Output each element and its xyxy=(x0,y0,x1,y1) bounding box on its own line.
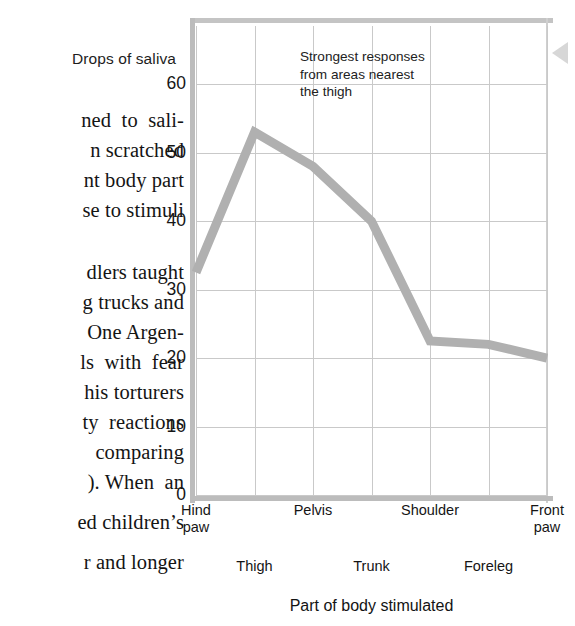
y-axis-title: Drops of saliva xyxy=(0,50,176,68)
y-axis-tick-label: 10 xyxy=(134,416,186,437)
plot-top-border xyxy=(190,18,553,23)
x-axis-category-label: Shoulder xyxy=(385,502,475,519)
x-axis-category-label: Foreleg xyxy=(444,558,534,575)
book-text-line: comparing xyxy=(95,442,184,462)
book-text-line: his torturers xyxy=(84,382,184,402)
gridline-vertical xyxy=(196,26,197,495)
annotation-line: the thigh xyxy=(300,83,480,101)
y-axis-line xyxy=(190,18,195,503)
gridline-vertical xyxy=(255,26,256,495)
gridline-vertical xyxy=(489,26,490,495)
x-axis-category-label: Trunk xyxy=(327,558,417,575)
x-axis-category-labels: Hind pawThighPelvisTrunkShoulderForelegF… xyxy=(196,500,547,580)
book-text-line: nt body part xyxy=(84,170,184,190)
gridline-horizontal xyxy=(196,153,547,154)
gridline-vertical xyxy=(547,26,548,495)
y-axis-tick-label: 30 xyxy=(134,279,186,300)
annotation-line: Strongest responses xyxy=(300,48,480,66)
y-axis-tick-label: 20 xyxy=(134,347,186,368)
x-axis-title: Part of body stimulated xyxy=(196,597,547,615)
book-text-line: r and longer xyxy=(84,552,184,572)
y-axis-tick-label: 60 xyxy=(134,73,186,94)
page-root: Drops of saliva ned to sali- n scratched… xyxy=(0,0,575,626)
saliva-line-chart: 0102030405060 Strongest responses from a… xyxy=(196,26,547,495)
book-text-line: ned to sali- xyxy=(81,110,184,130)
x-axis-category-label: Front paw xyxy=(502,502,575,536)
y-axis-tick-label: 50 xyxy=(134,142,186,163)
gridline-horizontal xyxy=(196,427,547,428)
gridline-horizontal xyxy=(196,358,547,359)
x-axis-category-label: Pelvis xyxy=(268,502,358,519)
left-pointing-triangle-icon xyxy=(552,42,568,64)
chart-annotation: Strongest responses from areas nearest t… xyxy=(300,48,480,101)
gridline-horizontal xyxy=(196,221,547,222)
gridline-horizontal xyxy=(196,495,547,496)
book-text-line: One Argen- xyxy=(87,322,184,342)
x-axis-category-label: Thigh xyxy=(210,558,300,575)
x-axis-category-label: Hind paw xyxy=(151,502,241,536)
y-axis-tick-label: 40 xyxy=(134,210,186,231)
annotation-line: from areas nearest xyxy=(300,66,480,84)
gridline-horizontal xyxy=(196,290,547,291)
